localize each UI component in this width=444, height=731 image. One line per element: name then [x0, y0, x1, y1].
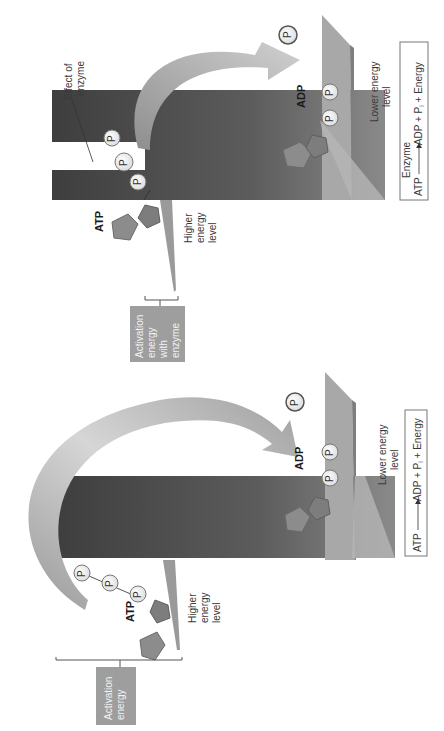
- svg-text:level: level: [211, 602, 222, 623]
- svg-text:level: level: [389, 449, 400, 470]
- svg-text:ATP: ATP: [124, 601, 136, 622]
- atp-molecule: [140, 600, 170, 660]
- equation-without-enzyme: ATP ADP + Pi + Energy: [412, 418, 424, 552]
- svg-text:P: P: [289, 399, 300, 406]
- inorganic-phosphate-bottom: P: [286, 393, 304, 411]
- svg-text:P: P: [132, 178, 143, 185]
- adp-label-top: ADP: [295, 85, 307, 108]
- svg-text:Enzyme: Enzyme: [401, 141, 412, 178]
- lower-energy-label-bottom: Lower energy level: [377, 424, 400, 485]
- adp-label-bottom: ADP: [293, 447, 305, 470]
- svg-text:ADP: ADP: [293, 447, 305, 470]
- svg-text:P: P: [324, 89, 335, 96]
- svg-text:Lower energy: Lower energy: [377, 424, 388, 485]
- svg-text:Activation: Activation: [103, 677, 114, 720]
- effect-of-enzyme-label: Effect of enzyme: [63, 61, 86, 100]
- higher-energy-label-top: Higher energy level: [183, 212, 218, 243]
- atp-label-top: ATP: [93, 211, 105, 232]
- svg-text:P: P: [132, 591, 143, 598]
- svg-text:ATP: ATP: [93, 211, 105, 232]
- svg-text:with: with: [158, 340, 169, 359]
- atp-label-bottom: ATP: [124, 601, 136, 622]
- svg-text:P: P: [76, 570, 87, 577]
- higher-energy-plane: [160, 200, 176, 292]
- higher-energy-label-bottom: Higher energy level: [187, 592, 222, 623]
- svg-text:enzyme: enzyme: [170, 323, 181, 358]
- svg-text:ATP ADP + Pi + Energy: ATP ADP + Pi + Energy: [413, 62, 425, 196]
- lower-energy-plane: [325, 372, 355, 560]
- panel-with-enzyme: P P P P P P ATP ADP Effect of: [52, 15, 428, 362]
- svg-text:ATP ADP + Pi + Energy: ATP ADP + Pi + Energy: [412, 418, 424, 552]
- svg-text:P: P: [324, 115, 335, 122]
- svg-text:energy: energy: [199, 592, 210, 623]
- svg-text:energy: energy: [146, 327, 157, 358]
- svg-text:P: P: [118, 159, 129, 166]
- svg-text:Lower energy: Lower energy: [369, 61, 380, 122]
- atp-hydrolysis-diagram: P P P P P P ATP ADP Effect of: [0, 0, 444, 731]
- svg-text:level: level: [381, 86, 392, 107]
- inorganic-phosphate-top: P: [279, 26, 297, 44]
- svg-text:P: P: [324, 449, 335, 456]
- svg-text:Higher: Higher: [183, 213, 194, 243]
- svg-text:Higher: Higher: [187, 593, 198, 623]
- svg-text:P: P: [104, 580, 115, 587]
- svg-text:level: level: [207, 222, 218, 243]
- svg-text:P: P: [324, 475, 335, 482]
- panel-without-enzyme: P P P P P P ATP ADP Higher energy level: [28, 372, 427, 725]
- svg-text:P: P: [106, 135, 117, 142]
- phosphate-chain-bottom: P P P: [74, 565, 146, 602]
- svg-text:P: P: [282, 31, 293, 38]
- svg-text:Activation: Activation: [134, 315, 145, 358]
- svg-text:energy: energy: [115, 689, 126, 720]
- svg-text:ADP: ADP: [295, 85, 307, 108]
- svg-text:energy: energy: [195, 212, 206, 243]
- svg-text:enzyme: enzyme: [75, 61, 86, 96]
- svg-text:Effect of: Effect of: [63, 63, 74, 100]
